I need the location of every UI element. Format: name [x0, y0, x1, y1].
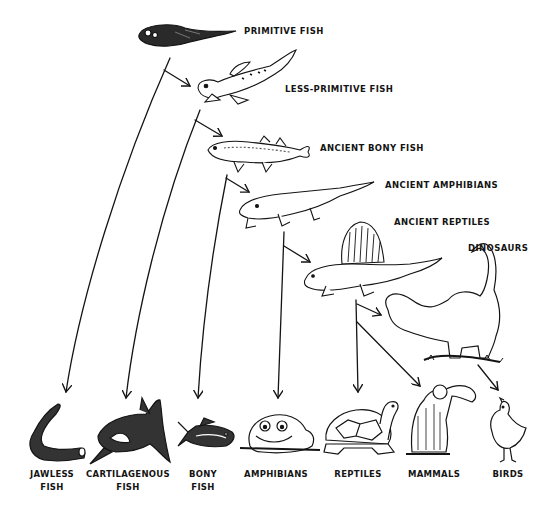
- arrow-primitive-to-jawless: [66, 58, 170, 392]
- arrow-lessprim-to-ancientbony: [195, 120, 222, 136]
- label-line1: BONY: [189, 468, 217, 481]
- reptile-drawing: [324, 402, 398, 454]
- label-line1: CARTILAGENOUS: [86, 468, 170, 481]
- label-jawless-fish: JAWLESS FISH: [30, 468, 74, 494]
- label-primitive-fish: PRIMITIVE FISH: [244, 26, 324, 36]
- bird-drawing: [491, 398, 526, 462]
- ancient-amphibian-drawing: [239, 182, 374, 228]
- diagram-drawing: [0, 0, 551, 514]
- amphibian-drawing: [240, 415, 320, 453]
- label-line1: JAWLESS: [30, 468, 74, 481]
- mammal-drawing: [406, 385, 476, 454]
- bony-fish-drawing: [178, 418, 234, 447]
- less-primitive-fish-drawing: [198, 50, 296, 104]
- arrow-ancrep-to-dinosaurs: [357, 304, 381, 315]
- label-reptiles: REPTILES: [334, 468, 381, 481]
- label-mammals: MAMMALS: [408, 468, 460, 481]
- arrow-ancrep-to-reptiles: [356, 300, 358, 392]
- arrow-ancientbony-to-amphibians-anc: [226, 178, 249, 192]
- label-line1: MAMMALS: [408, 468, 460, 481]
- evolution-diagram: PRIMITIVE FISH LESS-PRIMITIVE FISH ANCIE…: [0, 0, 551, 514]
- arrow-ancamph-to-amphibians: [278, 232, 284, 398]
- label-birds: BIRDS: [493, 468, 524, 481]
- cartilagenous-fish-drawing: [90, 398, 170, 464]
- arrows: [66, 58, 498, 398]
- primitive-fish-drawing: [139, 25, 236, 46]
- label-dinosaurs: DINOSAURS: [468, 243, 528, 253]
- arrow-ancamph-to-ancreptiles: [284, 246, 310, 262]
- label-amphibians: AMPHIBIANS: [244, 468, 308, 481]
- label-cartilagenous-fish: CARTILAGENOUS FISH: [86, 468, 170, 494]
- label-less-primitive-fish: LESS-PRIMITIVE FISH: [285, 84, 393, 94]
- dinosaur-drawing: [386, 244, 503, 362]
- jawless-fish-drawing: [30, 404, 85, 461]
- label-ancient-bony-fish: ANCIENT BONY FISH: [320, 143, 424, 153]
- arrow-lessprim-to-cartilagenous: [126, 110, 200, 398]
- label-bony-fish: BONY FISH: [189, 468, 217, 494]
- ancient-bony-fish-drawing: [208, 136, 309, 172]
- label-ancient-reptiles: ANCIENT REPTILES: [394, 217, 490, 227]
- label-line2: FISH: [30, 481, 74, 494]
- arrow-dinosaurs-to-birds: [478, 365, 498, 390]
- label-line2: FISH: [86, 481, 170, 494]
- arrow-ancientbony-to-bonyfish: [198, 175, 227, 398]
- arrow-primitive-to-less-primitive: [164, 70, 190, 86]
- label-line1: AMPHIBIANS: [244, 468, 308, 481]
- label-line1: REPTILES: [334, 468, 381, 481]
- label-line2: FISH: [189, 481, 217, 494]
- label-line1: BIRDS: [493, 468, 524, 481]
- ancient-reptile-drawing: [304, 222, 442, 296]
- label-ancient-amphibians: ANCIENT AMPHIBIANS: [385, 180, 498, 190]
